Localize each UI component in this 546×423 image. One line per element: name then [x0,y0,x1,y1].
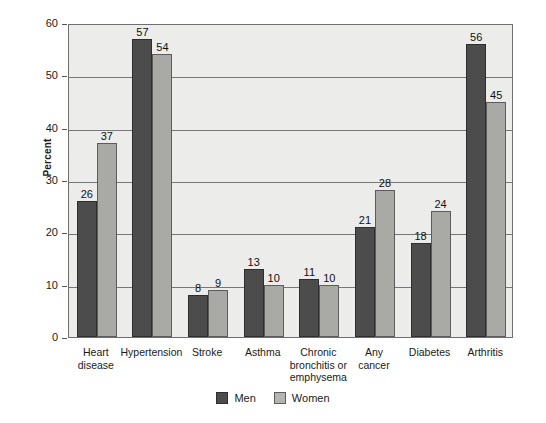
women-swatch [274,392,286,404]
bar-value-label: 37 [87,130,127,142]
y-tick-mark [62,233,67,234]
x-tick-label: Arthritis [445,346,525,359]
y-tick-mark [62,76,67,77]
y-tick-label: 10 [32,279,58,291]
y-tick-label: 40 [32,122,58,134]
y-tick-mark [62,181,67,182]
bar-women-0 [97,143,117,337]
x-tick-label-line: disease [56,359,136,372]
bar-value-label: 24 [421,198,461,210]
y-tick-label: 20 [32,226,58,238]
bar-value-label: 10 [309,272,349,284]
bar-value-label: 9 [198,277,238,289]
bar-men-2 [188,295,208,337]
bar-value-label: 28 [365,177,405,189]
y-tick-label: 50 [32,69,58,81]
chart-legend: MenWomen [0,392,546,404]
bar-women-4 [319,285,339,337]
legend-item-women[interactable]: Women [274,392,330,404]
y-tick-mark [62,24,67,25]
bar-value-label: 10 [254,272,294,284]
bar-women-3 [264,285,284,337]
bar-women-5 [375,190,395,337]
plot-area: 263757548913101110212818245645 [68,24,513,338]
bar-value-label: 56 [456,31,496,43]
bar-women-1 [152,54,172,337]
y-tick-mark [62,129,67,130]
y-tick-mark [62,286,67,287]
bar-value-label: 13 [234,256,274,268]
bar-women-7 [486,102,506,338]
bar-value-label: 54 [142,41,182,53]
y-tick-label: 60 [32,17,58,29]
y-tick-label: 0 [32,331,58,343]
bar-women-6 [431,211,451,337]
x-tick-label-line: emphysema [279,371,359,384]
bar-value-label: 57 [122,26,162,38]
bar-men-5 [355,227,375,337]
bar-women-2 [208,290,228,337]
y-tick-label: 30 [32,174,58,186]
x-tick-label-line: Arthritis [445,346,525,359]
x-tick-label-line: cancer [334,359,414,372]
bar-men-4 [299,279,319,337]
legend-label: Men [234,392,255,404]
legend-label: Women [292,392,330,404]
y-tick-mark [62,338,67,339]
bar-value-label: 45 [476,89,516,101]
bar-chart: Percent 0102030405060 263757548913101110… [0,0,546,423]
bar-men-0 [77,201,97,337]
legend-item-men[interactable]: Men [216,392,255,404]
bar-men-1 [132,39,152,337]
bar-men-6 [411,243,431,337]
men-swatch [216,392,228,404]
